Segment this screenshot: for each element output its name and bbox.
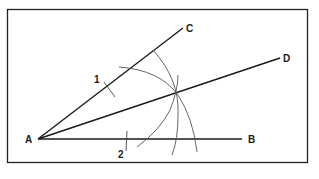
mark-2-tick [126,131,127,151]
label-a: A [25,134,32,145]
ray-ac [38,28,183,139]
arc-from-ab [137,75,178,147]
label-mark-2: 2 [118,149,124,160]
label-b: B [248,134,255,145]
label-c: C [186,23,193,34]
label-d: D [283,53,290,64]
label-mark-1: 1 [94,74,100,85]
bisector-diagram: A B C D 1 2 [0,0,319,179]
